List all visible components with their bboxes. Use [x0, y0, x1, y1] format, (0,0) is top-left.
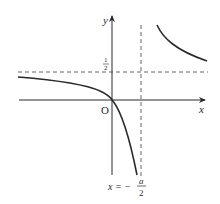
- origin-label: O: [101, 104, 109, 116]
- svg-text:x = −: x = −: [107, 181, 131, 192]
- y-axis-label: y: [102, 14, 108, 26]
- function-graph: y x O 1 2 x = − a 2: [0, 0, 220, 204]
- half-label: 1 2: [103, 56, 109, 72]
- curve-left-branch: [18, 77, 137, 175]
- curve-right-branch: [157, 25, 207, 61]
- svg-text:a: a: [139, 176, 144, 186]
- svg-text:2: 2: [104, 64, 108, 72]
- x-axis-label: x: [198, 103, 204, 115]
- svg-text:2: 2: [139, 188, 144, 198]
- svg-text:1: 1: [104, 56, 108, 64]
- vertical-asymptote-label: x = − a 2: [107, 176, 146, 198]
